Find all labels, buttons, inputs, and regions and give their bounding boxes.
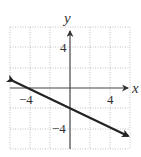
y-axis-label: y (62, 10, 71, 26)
y-tick-pos4: 4 (60, 40, 67, 55)
x-tick-neg4: −4 (19, 92, 33, 107)
coordinate-plane: x y −4 4 4 −4 (0, 0, 141, 157)
y-tick-neg4: −4 (52, 121, 66, 136)
x-axis-label: x (131, 80, 139, 96)
x-tick-pos4: 4 (107, 92, 114, 107)
